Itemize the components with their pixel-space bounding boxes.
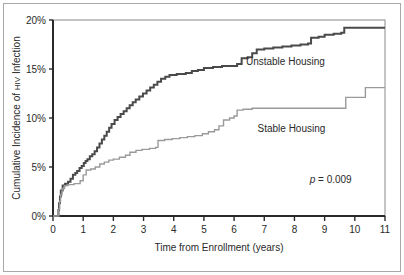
cumulative-incidence-chart: 0%5%10%15%20%01234567891011Time from Enr… [0, 0, 404, 275]
x-tick-label: 2 [111, 224, 117, 235]
p-value-number: = 0.009 [315, 174, 352, 185]
series-line-stable-housing [53, 88, 385, 216]
x-axis-title: Time from Enrollment (years) [154, 242, 283, 253]
y-axis-title-tail: Infection [11, 36, 22, 77]
x-tick-label: 4 [171, 224, 177, 235]
x-tick-label: 10 [349, 224, 361, 235]
x-tick-label: 5 [201, 224, 207, 235]
stable-housing-label: Stable Housing [258, 123, 326, 134]
y-tick-label: 10% [26, 113, 46, 124]
series-line-unstable-housing [53, 28, 385, 216]
x-tick-label: 8 [292, 224, 298, 235]
p-value: p = 0.009 [309, 174, 352, 185]
y-tick-label: 0% [32, 211, 47, 222]
y-axis-title-lead: Cumulative Incidence of [11, 90, 22, 200]
x-tick-label: 1 [80, 224, 86, 235]
x-tick-label: 7 [261, 224, 267, 235]
x-tick-label: 6 [231, 224, 237, 235]
plot-area-frame [53, 20, 385, 216]
x-tick-label: 11 [380, 224, 391, 235]
figure-container: 0%5%10%15%20%01234567891011Time from Enr… [0, 0, 404, 275]
y-axis-title-hiv: HIV [13, 76, 22, 90]
y-tick-label: 20% [26, 15, 46, 26]
unstable-housing-label: Unstable Housing [246, 56, 325, 67]
y-axis-title: Cumulative Incidence of HIV Infection [11, 36, 22, 199]
x-tick-label: 3 [141, 224, 147, 235]
y-tick-label: 5% [32, 162, 47, 173]
x-tick-label: 9 [322, 224, 328, 235]
x-tick-label: 0 [50, 224, 56, 235]
y-tick-label: 15% [26, 64, 46, 75]
